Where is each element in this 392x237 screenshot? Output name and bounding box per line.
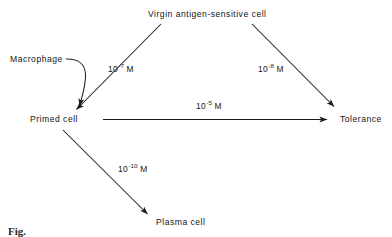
edge-label-primed-to-plasma: 10-10M bbox=[118, 163, 148, 173]
edge-label-primed-to-tolerance: 10-5M bbox=[196, 100, 222, 110]
edge-label-mantissa: 10 bbox=[108, 64, 118, 74]
edge-label-unit: M bbox=[215, 101, 222, 111]
edge-label-exponent: -10 bbox=[128, 162, 138, 169]
edge-label-unit: M bbox=[127, 64, 134, 74]
figure-canvas: Virgin antigen-sensitive cell Macrophage… bbox=[0, 0, 392, 237]
edge-label-mantissa: 10 bbox=[258, 64, 268, 74]
edge-label-unit: M bbox=[140, 164, 147, 174]
figure-caption: Fig. bbox=[8, 226, 26, 237]
edge-label-virgin-to-tolerance: 10-8M bbox=[258, 63, 284, 73]
node-virgin-antigen-sensitive-cell: Virgin antigen-sensitive cell bbox=[148, 10, 266, 19]
edge-label-mantissa: 10 bbox=[118, 164, 128, 174]
edge-label-exponent: -5 bbox=[206, 99, 212, 106]
node-macrophage: Macrophage bbox=[10, 55, 63, 64]
edge-macrophage-to-primed bbox=[66, 59, 86, 106]
node-tolerance: Tolerance bbox=[340, 115, 382, 124]
edge-label-mantissa: 10 bbox=[196, 101, 206, 111]
edge-label-exponent: -8 bbox=[268, 62, 274, 69]
edge-label-virgin-to-primed: 10-7M bbox=[108, 63, 134, 73]
edge-label-unit: M bbox=[277, 64, 284, 74]
node-plasma-cell: Plasma cell bbox=[156, 218, 205, 227]
edge-label-exponent: -7 bbox=[118, 62, 124, 69]
node-primed-cell: Primed cell bbox=[30, 115, 78, 124]
